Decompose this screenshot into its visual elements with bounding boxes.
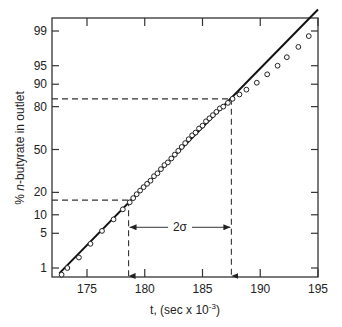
- x-axis-ticks: 175180185190195: [77, 18, 328, 296]
- y-tick-label: 20: [34, 185, 48, 199]
- data-point: [244, 87, 249, 92]
- data-point: [226, 100, 231, 105]
- data-point: [111, 217, 116, 222]
- data-point: [88, 241, 93, 246]
- y-tick-label: 50: [34, 143, 48, 157]
- data-point: [120, 207, 125, 212]
- data-point: [59, 272, 64, 277]
- data-point: [275, 63, 280, 68]
- y-tick-label: 10: [34, 208, 48, 222]
- y-tick-label: 1: [40, 261, 47, 275]
- x-tick-label: 175: [77, 282, 97, 296]
- data-point: [306, 34, 311, 39]
- data-point: [221, 104, 226, 109]
- data-point: [100, 229, 105, 234]
- x-tick-label: 195: [308, 282, 328, 296]
- two-sigma-label: 2σ: [173, 220, 188, 234]
- plot-frame: [52, 18, 318, 277]
- data-point: [237, 92, 242, 97]
- x-tick-label: 180: [135, 282, 155, 296]
- chart-container: 1510205080909599 175180185190195 2σ t, (…: [0, 0, 342, 327]
- data-point: [155, 171, 160, 176]
- probability-plot: 1510205080909599 175180185190195 2σ t, (…: [0, 0, 342, 327]
- y-tick-label: 99: [34, 24, 48, 38]
- y-axis-label: % n-butyrate in outlet: [13, 91, 27, 205]
- y-tick-label: 90: [34, 77, 48, 91]
- data-point: [127, 200, 132, 205]
- y-tick-label: 80: [34, 100, 48, 114]
- x-tick-label: 190: [250, 282, 270, 296]
- data-point: [77, 255, 82, 260]
- data-point: [148, 178, 153, 183]
- data-point: [284, 55, 289, 60]
- data-point: [230, 96, 235, 101]
- data-points: [59, 34, 311, 277]
- data-point: [265, 72, 270, 77]
- data-point: [200, 123, 205, 128]
- x-tick-label: 185: [192, 282, 212, 296]
- data-point: [296, 45, 301, 50]
- data-point: [193, 130, 198, 135]
- data-point: [65, 266, 70, 271]
- x-axis-label: t, (sec x 10-3): [150, 302, 220, 317]
- data-point: [254, 80, 259, 85]
- y-tick-label: 5: [40, 226, 47, 240]
- data-point: [159, 167, 164, 172]
- axis-box: [52, 18, 318, 277]
- y-tick-label: 95: [34, 59, 48, 73]
